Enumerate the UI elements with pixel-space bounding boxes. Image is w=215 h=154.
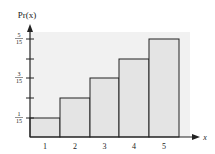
y-tick-label-3-15: 3 15 (15, 71, 23, 84)
x-axis-label: x (202, 133, 207, 142)
bar-4 (119, 59, 149, 137)
svg-text:15: 15 (16, 118, 22, 124)
svg-text:15: 15 (16, 39, 22, 45)
svg-text:1: 1 (43, 142, 47, 151)
svg-text:5: 5 (18, 32, 21, 38)
svg-text:1: 1 (18, 111, 21, 117)
svg-text:3: 3 (18, 71, 21, 77)
y-tick-label-5-15: 5 15 (15, 32, 23, 45)
svg-text:2: 2 (73, 142, 77, 151)
bar-3 (90, 78, 119, 137)
bar-2 (60, 98, 90, 137)
svg-text:15: 15 (16, 78, 22, 84)
probability-bar-chart: 1 15 3 15 5 15 1 2 3 4 5 Pr(x) x (0, 0, 215, 154)
svg-text:5: 5 (162, 142, 166, 151)
svg-text:4: 4 (132, 142, 136, 151)
y-tick-label-1-15: 1 15 (15, 111, 23, 124)
x-axis-arrow-icon (192, 134, 200, 140)
bar-1 (30, 118, 60, 137)
y-axis-arrow-icon (27, 24, 33, 32)
svg-text:3: 3 (103, 142, 107, 151)
x-tick-labels: 1 2 3 4 5 (43, 142, 166, 151)
y-axis-label: Pr(x) (18, 10, 37, 20)
bar-5 (149, 39, 179, 137)
